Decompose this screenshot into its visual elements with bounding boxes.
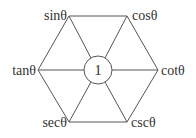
center-label: 1 [94,62,102,78]
spoke-csc [105,82,127,122]
label-tan: tanθ [12,63,36,78]
trig-hexagon-diagram: 1 sinθ cosθ cotθ cscθ secθ tanθ [0,0,196,138]
spoke-cos [105,16,127,58]
label-cot: cotθ [161,63,185,78]
spoke-sec [69,82,91,122]
label-cos: cosθ [132,8,158,23]
label-sin: sinθ [44,8,67,23]
label-csc: cscθ [131,115,156,130]
label-sec: secθ [42,115,67,130]
spoke-sin [69,16,91,58]
